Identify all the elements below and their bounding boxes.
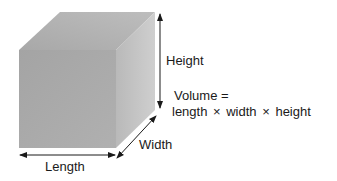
height-label: Height <box>166 53 204 68</box>
formula-line-2: length × width × height <box>172 104 311 119</box>
cube-diagram <box>0 0 337 181</box>
formula-line-1: Volume = <box>174 88 229 103</box>
cube-front-face <box>19 50 116 148</box>
length-label: Length <box>45 159 85 174</box>
width-label: Width <box>139 137 172 152</box>
